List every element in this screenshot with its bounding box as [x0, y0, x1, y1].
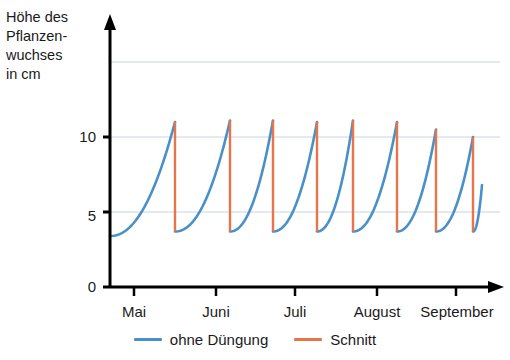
chart-legend: ohne Düngung Schnitt: [0, 331, 510, 348]
chart-plot-area: [0, 0, 510, 360]
legend-swatch-schnitt: [294, 338, 322, 341]
legend-item-ohne-duengung: ohne Düngung: [134, 331, 268, 348]
legend-swatch-ohne-duengung: [134, 338, 162, 341]
plant-growth-chart: Höhe des Pflanzen- wuchses in cm 10 5 0 …: [0, 0, 510, 360]
gridlines: [110, 62, 500, 212]
legend-label-ohne-duengung: ohne Düngung: [170, 331, 268, 348]
growth-curve-series: [110, 121, 482, 237]
axes: [103, 14, 504, 296]
legend-item-schnitt: Schnitt: [294, 331, 376, 348]
legend-label-schnitt: Schnitt: [330, 331, 376, 348]
